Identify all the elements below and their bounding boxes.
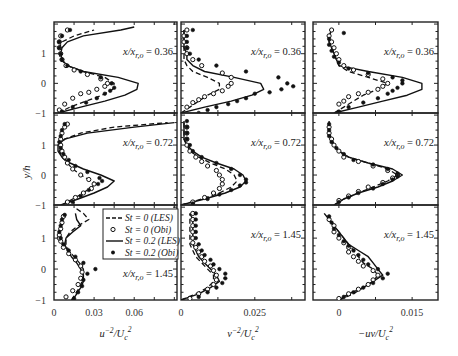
data-point-st02-obi <box>238 184 242 188</box>
data-point-st02-obi <box>337 200 341 204</box>
data-point-st02-obi <box>337 61 341 65</box>
x-tick-label: 0.015 <box>401 307 424 318</box>
data-point-st02-obi <box>71 105 75 109</box>
data-point-st02-obi <box>327 128 331 132</box>
data-point-st0-obi <box>185 105 189 109</box>
data-point-st0-obi <box>73 195 77 199</box>
data-point-st02-obi <box>401 79 405 83</box>
data-point-st0-obi <box>203 95 207 99</box>
x-tick-label: 0.025 <box>244 307 267 318</box>
legend: St = 0 (LES)St = 0 (Obi)St = 0.2 (LES)St… <box>103 209 180 259</box>
data-point-st0-obi <box>366 282 370 286</box>
data-point-st02-obi <box>280 88 284 92</box>
data-point-st02-obi <box>79 194 83 198</box>
data-point-st02-obi <box>386 272 390 276</box>
data-point-st02-obi <box>337 233 341 237</box>
data-point-st0-obi <box>87 177 91 181</box>
data-point-st02-obi <box>342 295 346 299</box>
data-point-st02-obi <box>58 230 62 234</box>
station-label: x/xr,o = 0.72 <box>122 137 173 151</box>
figure: x/xr,o = 0.36x/xr,o = 0.36x/xr,o = 0.36x… <box>0 0 458 356</box>
data-point-st02-obi <box>362 258 366 262</box>
data-point-st02-obi <box>74 164 78 168</box>
data-point-st0-obi <box>95 87 99 91</box>
data-point-st02-obi <box>352 158 356 162</box>
data-point-st02-obi <box>244 178 248 182</box>
data-point-st0-obi <box>217 173 221 177</box>
data-point-st02-obi <box>194 236 198 240</box>
data-point-st02-obi <box>203 253 207 257</box>
data-point-st02-obi <box>235 99 239 103</box>
data-point-st02-obi <box>238 173 242 177</box>
data-point-st02-obi <box>332 227 336 231</box>
data-point-st0-obi <box>342 99 346 103</box>
data-point-st0-obi <box>92 182 96 186</box>
data-point-st02-obi <box>63 122 67 126</box>
station-label-sub: r,o <box>263 51 271 60</box>
data-point-st02-obi <box>100 179 104 183</box>
data-point-st02-obi <box>82 261 86 265</box>
data-point-st0-obi <box>211 92 215 96</box>
station-label-sub: r,o <box>396 51 404 60</box>
data-point-st0-obi <box>197 98 201 102</box>
data-point-st0-obi <box>191 241 195 245</box>
x-tick-label: 0 <box>336 307 341 318</box>
data-point-st0-obi <box>214 278 218 282</box>
data-point-st02-obi <box>335 146 339 150</box>
data-point-st02-obi <box>86 272 90 276</box>
data-point-st02-obi <box>200 249 204 253</box>
station-label-main: x/x <box>250 137 264 148</box>
data-point-st02-obi <box>206 197 210 201</box>
data-point-st0-obi <box>356 159 360 163</box>
data-point-st02-obi <box>80 284 84 288</box>
data-point-st02-obi <box>67 249 71 253</box>
data-point-st0-obi <box>356 287 360 291</box>
panel-r3-c2: x/xr,o = 1.45 <box>181 205 305 301</box>
data-point-st0-obi <box>220 89 224 93</box>
data-point-st02-obi <box>371 187 375 191</box>
data-point-st0-obi <box>347 95 351 99</box>
data-point-st02-obi <box>84 101 88 105</box>
legend-swatch-open-circle <box>111 227 115 231</box>
data-point-st0-obi <box>206 164 210 168</box>
data-point-st02-obi <box>67 158 71 162</box>
station-label-main: x/x <box>383 137 397 148</box>
x-tick-label: 0.06 <box>125 307 143 318</box>
data-point-st02-obi <box>62 243 66 247</box>
data-point-st0-obi <box>220 177 224 181</box>
data-point-st0-obi <box>105 81 109 85</box>
data-point-st02-obi <box>185 125 189 129</box>
data-point-st02-obi <box>59 236 63 240</box>
data-point-st02-obi <box>194 230 198 234</box>
panel-data <box>181 211 227 300</box>
station-label-sub: r,o <box>135 273 143 282</box>
data-point-st02-obi <box>229 167 233 171</box>
y-tick-label: −1 <box>35 108 46 119</box>
data-point-st02-obi <box>87 188 91 192</box>
data-point-st02-obi <box>194 212 198 216</box>
panel-data <box>58 122 175 205</box>
series-line-st02-les <box>329 121 402 205</box>
y-tick-label: −1 <box>35 295 46 306</box>
data-point-st02-obi <box>103 92 107 96</box>
data-point-st02-obi <box>60 218 64 222</box>
data-point-st02-obi <box>209 258 213 262</box>
data-point-st02-obi <box>58 140 62 144</box>
data-point-st02-obi <box>391 89 395 93</box>
data-point-st0-obi <box>330 28 334 32</box>
data-point-st02-obi <box>215 161 219 165</box>
x-tick-label: 0 <box>52 307 57 318</box>
data-point-st0-obi <box>381 84 385 88</box>
data-point-st0-obi <box>200 159 204 163</box>
data-point-st02-obi <box>277 76 281 80</box>
data-point-st0-obi <box>79 173 83 177</box>
station-label-main: x/x <box>250 229 264 240</box>
data-point-st02-obi <box>76 291 80 295</box>
x-tick-label: 0 <box>179 307 184 318</box>
data-point-st02-obi <box>386 92 390 96</box>
data-point-st02-obi <box>191 149 195 153</box>
data-point-st02-obi <box>68 28 72 32</box>
series-line-st0-les <box>329 121 397 205</box>
y-tick-label: 0 <box>41 78 46 89</box>
data-point-st0-obi <box>229 81 233 85</box>
